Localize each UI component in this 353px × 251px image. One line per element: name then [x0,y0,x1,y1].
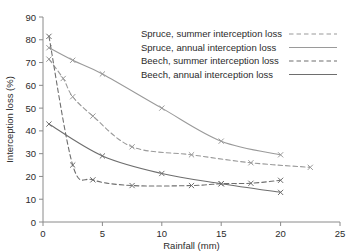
x-tick-label: 10 [157,228,168,239]
legend-label-3: Beech, annual interception loss [141,69,273,80]
y-tick-label: 30 [25,148,36,159]
y-tick-label: 90 [25,12,36,23]
x-axis-label: Rainfall (mm) [163,240,219,251]
y-tick-label: 70 [25,57,36,68]
x-tick-label: 0 [40,228,45,239]
y-tick-label: 50 [25,103,36,114]
y-tick-label: 20 [25,171,36,182]
chart-figure: 0102030405060708090 0510152025 Intercept… [0,0,353,251]
y-tick-label: 40 [25,125,36,136]
y-tick-label: 60 [25,80,36,91]
x-tick-label: 20 [275,228,286,239]
y-axis-label: Interception loss (%) [4,76,15,163]
y-tick-label: 80 [25,34,36,45]
legend-label-0: Spruce, summer interception loss [141,28,282,39]
legend-label-2: Beech, summer interception loss [141,55,279,66]
y-tick-label: 0 [31,217,36,228]
legend-label-1: Spruce, annual interception loss [141,42,276,53]
x-tick-label: 5 [100,228,105,239]
y-tick-label: 10 [25,194,36,205]
x-tick-label: 25 [335,228,346,239]
interception-loss-line-chart: 0102030405060708090 0510152025 Intercept… [0,0,353,251]
x-tick-label: 15 [216,228,227,239]
